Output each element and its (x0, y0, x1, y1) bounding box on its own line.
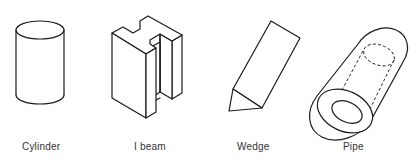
cylinder-label: Cylinder (22, 141, 60, 152)
cylinder-drawing (16, 21, 64, 104)
ibeam-right-flange-side (172, 35, 182, 99)
wedge-label: Wedge (237, 141, 270, 152)
ibeam-label: I beam (134, 141, 166, 152)
cylinder-bottom-arc (16, 95, 64, 104)
cylinder-top-ellipse (16, 21, 64, 39)
ibeam-right-flange-front (160, 34, 172, 99)
pipe-drawing (310, 28, 408, 141)
wedge-drawing (229, 21, 300, 111)
ibeam-drawing (112, 16, 182, 118)
ibeam-left-flange-side (146, 48, 156, 118)
pipe-label: Pipe (343, 141, 364, 152)
shapes-figure (0, 0, 420, 162)
